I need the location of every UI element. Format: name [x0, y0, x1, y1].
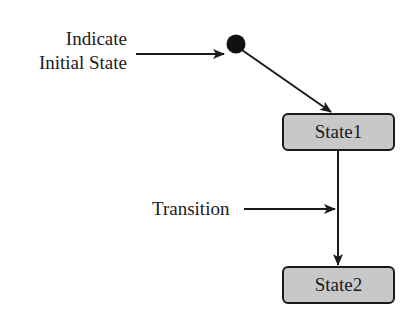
initial-state-annotation-line2: Initial State	[39, 51, 127, 75]
initial-state-annotation-line1: Indicate	[39, 27, 127, 51]
state-node-state2: State2	[282, 266, 395, 304]
state2-label: State2	[315, 274, 363, 296]
state1-label: State1	[315, 121, 363, 143]
initial-transition-arrow	[242, 50, 331, 112]
initial-state-annotation: Indicate Initial State	[39, 27, 127, 75]
transition-annotation: Transition	[152, 197, 229, 221]
state-node-state1: State1	[282, 113, 395, 151]
